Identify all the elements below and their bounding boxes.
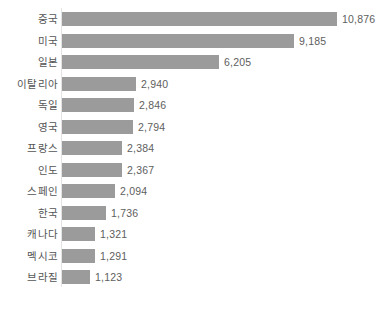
category-label: 일본: [38, 51, 58, 73]
bar-row: 한국1,736: [0, 202, 384, 224]
bar: [62, 55, 219, 69]
bar: [62, 141, 122, 155]
bar-value-label: 2,846: [139, 94, 166, 116]
bar-value-label: 2,094: [120, 180, 147, 202]
bar-row: 중국10,876: [0, 8, 384, 30]
bar-row: 일본6,205: [0, 51, 384, 73]
bar-row: 미국9,185: [0, 30, 384, 52]
bar-value-label: 10,876: [342, 8, 375, 30]
bar: [62, 184, 115, 198]
bar-value-label: 1,321: [100, 223, 127, 245]
bar-value-label: 6,205: [224, 51, 251, 73]
bar-row: 캐나다1,321: [0, 223, 384, 245]
category-label: 스페인: [27, 180, 58, 202]
bar: [62, 98, 134, 112]
bar-value-label: 9,185: [299, 30, 326, 52]
bar-row: 프랑스2,384: [0, 137, 384, 159]
category-label: 인도: [38, 159, 58, 181]
category-label: 이탈리아: [17, 73, 58, 95]
bar-row: 인도2,367: [0, 159, 384, 181]
bar-value-label: 2,794: [138, 116, 165, 138]
bar-row: 이탈리아2,940: [0, 73, 384, 95]
category-label: 한국: [38, 202, 58, 224]
bar: [62, 120, 133, 134]
category-label: 독일: [38, 94, 58, 116]
bar: [62, 163, 122, 177]
bar: [62, 12, 337, 26]
bar: [62, 227, 95, 241]
bar-value-label: 2,940: [141, 73, 168, 95]
bar-row: 독일2,846: [0, 94, 384, 116]
bar: [62, 34, 294, 48]
bar: [62, 270, 90, 284]
bar: [62, 206, 106, 220]
bar-row: 멕시코1,291: [0, 245, 384, 267]
category-label: 영국: [38, 116, 58, 138]
bar-value-label: 1,736: [111, 202, 138, 224]
bar-value-label: 1,291: [100, 245, 127, 267]
category-label: 미국: [38, 30, 58, 52]
category-label: 캐나다: [27, 223, 58, 245]
category-label: 프랑스: [27, 137, 58, 159]
bar-value-label: 2,367: [127, 159, 154, 181]
category-label: 멕시코: [27, 245, 58, 267]
bar: [62, 77, 136, 91]
bar-row: 브라질1,123: [0, 266, 384, 288]
bar-value-label: 2,384: [127, 137, 154, 159]
bar: [62, 249, 95, 263]
bar-row: 영국2,794: [0, 116, 384, 138]
bar-chart: 중국10,876미국9,185일본6,205이탈리아2,940독일2,846영국…: [0, 0, 384, 309]
category-label: 브라질: [27, 266, 58, 288]
category-label: 중국: [38, 8, 58, 30]
bar-row: 스페인2,094: [0, 180, 384, 202]
bar-value-label: 1,123: [95, 266, 122, 288]
plot-area: 중국10,876미국9,185일본6,205이탈리아2,940독일2,846영국…: [0, 0, 384, 309]
